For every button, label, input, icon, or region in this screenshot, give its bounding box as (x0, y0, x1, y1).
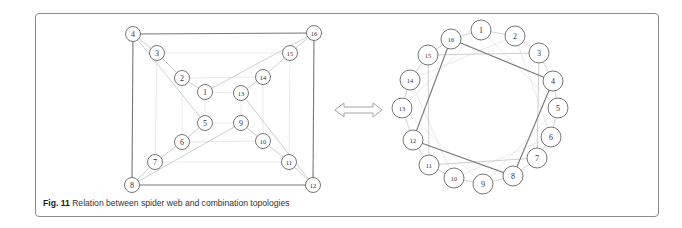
edge-dark (313, 33, 314, 185)
spider-web-node-11: 11 (282, 155, 297, 170)
figure-caption: Fig. 11 Relation between spider web and … (43, 198, 290, 208)
spider-web-node-5: 5 (198, 116, 213, 131)
node-label: 3 (537, 49, 541, 58)
spider-web-node-10: 10 (256, 134, 271, 149)
node-label: 15 (425, 52, 432, 59)
combination-node-16: 16 (441, 29, 461, 49)
node-label: 5 (203, 119, 207, 128)
node-label: 16 (448, 36, 455, 43)
edge-faint (182, 77, 263, 78)
node-label: 4 (131, 30, 135, 39)
figure-diagram: 12345678910111213141516 1234567891011121… (0, 0, 682, 228)
combination-node-7: 7 (527, 148, 547, 168)
node-label: 16 (311, 30, 318, 37)
node-label: 7 (535, 154, 539, 163)
spider-web-node-16: 16 (307, 26, 322, 41)
spider-web-topology: 12345678910111213141516 (125, 26, 322, 193)
combination-node-12: 12 (403, 130, 423, 150)
combination-topology: 12345678910111213141516 (392, 20, 568, 194)
combination-node-14: 14 (400, 70, 420, 90)
figure-label: Fig. 11 (43, 198, 70, 208)
node-label: 6 (549, 133, 553, 142)
spider-web-node-8: 8 (125, 178, 140, 193)
edge-dark (133, 33, 314, 34)
node-label: 12 (410, 137, 417, 144)
edge-light (133, 34, 205, 123)
node-label: 2 (180, 74, 184, 83)
node-label: 1 (203, 88, 207, 97)
node-label: 15 (287, 50, 294, 57)
edge-faint (289, 53, 290, 162)
spider-web-node-3: 3 (150, 46, 165, 61)
node-label: 1 (479, 26, 483, 35)
combination-node-8: 8 (503, 166, 523, 186)
combination-node-3: 3 (529, 43, 549, 63)
spider-web-node-15: 15 (283, 46, 298, 61)
node-label: 14 (407, 77, 414, 84)
combination-node-11: 11 (419, 155, 439, 175)
combination-node-9: 9 (473, 174, 493, 194)
spider-web-node-12: 12 (306, 178, 321, 193)
spider-web-node-1: 1 (198, 85, 213, 100)
spider-web-node-7: 7 (148, 155, 163, 170)
node-label: 7 (153, 158, 157, 167)
spider-web-node-2: 2 (175, 71, 190, 86)
node-label: 9 (239, 119, 243, 128)
node-label: 11 (286, 159, 292, 166)
node-label: 12 (310, 182, 317, 189)
edge-faint (182, 141, 263, 142)
node-label: 14 (260, 74, 267, 81)
node-label: 5 (556, 104, 560, 113)
node-label: 2 (513, 32, 517, 41)
combination-node-2: 2 (505, 26, 525, 46)
node-label: 4 (551, 77, 555, 86)
node-label: 3 (155, 49, 159, 58)
node-label: 13 (238, 90, 245, 97)
spider-web-node-13: 13 (234, 86, 249, 101)
combination-node-6: 6 (541, 127, 561, 147)
combination-node-1: 1 (471, 20, 491, 40)
edge-light (241, 93, 313, 185)
spider-web-node-6: 6 (175, 135, 190, 150)
node-label: 6 (180, 138, 184, 147)
combination-node-5: 5 (548, 98, 568, 118)
edge-faint (155, 53, 157, 162)
node-label: 10 (260, 138, 267, 145)
edge-light (132, 123, 241, 185)
edge-light (428, 55, 429, 165)
combination-node-10: 10 (444, 168, 464, 188)
node-label: 8 (511, 172, 515, 181)
spider-web-node-4: 4 (126, 27, 141, 42)
double-arrow-icon (335, 103, 382, 117)
combination-node-13: 13 (392, 98, 412, 118)
node-label: 11 (426, 162, 432, 169)
figure-caption-text: Relation between spider web and combinat… (72, 198, 289, 208)
node-label: 13 (399, 105, 406, 112)
spider-web-node-14: 14 (256, 70, 271, 85)
node-label: 8 (130, 181, 134, 190)
combination-node-15: 15 (418, 45, 438, 65)
node-label: 10 (451, 175, 458, 182)
combination-node-4: 4 (543, 71, 563, 91)
edge-dark (132, 34, 133, 185)
spider-web-node-9: 9 (234, 116, 249, 131)
node-label: 9 (481, 180, 485, 189)
